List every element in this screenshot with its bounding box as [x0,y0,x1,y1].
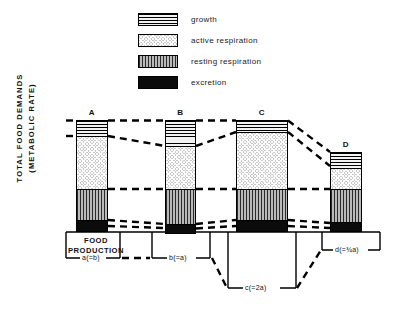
bar-a-segment-active-respiration [76,136,108,189]
bracket-label-d: d(=¾a) [333,246,361,253]
bar-a-segment-growth [76,120,108,136]
connector-c-to-d-excretion [288,220,330,223]
bar-d-segment-growth [330,152,362,168]
bar-d-segment-active-respiration [330,168,362,189]
bar-d[interactable] [330,152,362,232]
connector-c-to-d-base [288,226,330,228]
food-production-line1: FOOD [60,236,132,246]
bar-c-segment-excretion [236,220,288,232]
bar-a-segment-excretion [76,220,108,232]
bracket-label-c: c(=2a) [243,284,269,291]
bar-c-segment-resting-respiration [236,189,288,220]
bracket-c [228,232,296,288]
bar-b-segment-growth [165,120,196,146]
bar-d-segment-excretion [330,222,362,232]
bar-b-segment-active-respiration [165,146,196,189]
connector-a-to-b-excretion [108,220,165,224]
connector-c-to-d-top [288,121,330,153]
bar-b-segment-resting-respiration [165,189,196,224]
connector-b-to-c-excretion [196,220,236,224]
connector-a-to-b-growth [108,136,165,146]
connector-b-to-c-base [196,226,236,229]
bar-c-segment-growth [236,120,288,132]
bar-label-c: C [236,108,288,117]
bracket-label-a: a(=b) [80,254,102,261]
food-production-label: FOOD PRODUCTION [60,236,132,256]
bar-d-segment-resting-respiration [330,189,362,222]
bar-label-d: D [330,140,362,149]
bar-a[interactable] [76,120,108,232]
bar-b-segment-excretion [165,224,196,234]
figure-container: growth active respiration resting respir… [0,0,401,310]
bar-b[interactable] [165,120,196,234]
bar-label-a: A [76,108,108,117]
bracket-label-b: b(=a) [167,254,189,261]
bar-c-segment-active-respiration [236,132,288,189]
bracket-connector-b-c [212,258,227,288]
bar-c[interactable] [236,120,288,232]
bar-a-segment-resting-respiration [76,189,108,220]
bar-label-b: B [165,108,196,117]
connector-a-to-b-base [108,226,165,228]
connector-b-to-c-growth [196,132,236,146]
bracket-connector-c-d [297,250,321,288]
